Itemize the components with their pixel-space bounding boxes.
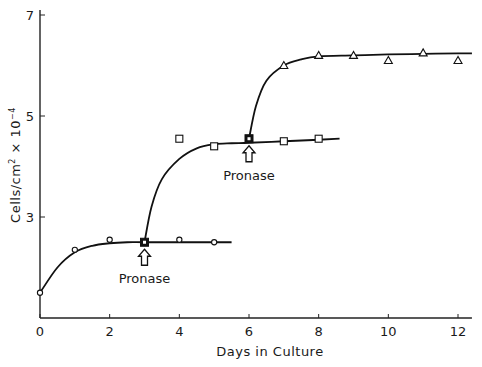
y-tick-label: 3 <box>26 210 34 225</box>
x-axis-label: Days in Culture <box>216 344 323 359</box>
x-tick-label: 0 <box>36 324 44 339</box>
y-tick-label: 7 <box>26 8 34 23</box>
y-tick-label: 5 <box>26 109 34 124</box>
y-axis-label: Cells/cm2 × 10−4 <box>8 107 23 223</box>
triangle-marker <box>454 56 462 63</box>
curve-series-2 <box>145 139 340 243</box>
up-arrow-icon <box>139 249 151 265</box>
circle-marker <box>72 247 77 252</box>
pronase-annotation: Pronase <box>223 146 275 183</box>
filled-square-center <box>143 241 146 244</box>
filled-square-center <box>248 137 251 140</box>
x-tick-label: 6 <box>245 324 253 339</box>
x-tick-label: 10 <box>380 324 397 339</box>
pronase-annotation: Pronase <box>119 249 171 286</box>
square-marker <box>280 138 287 145</box>
circle-marker <box>107 237 112 242</box>
cell-growth-chart: 024681012357 PronasePronase Days in Cult… <box>0 0 482 367</box>
square-marker <box>315 135 322 142</box>
x-tick-label: 8 <box>315 324 323 339</box>
circle-marker <box>177 237 182 242</box>
x-tick-label: 12 <box>450 324 467 339</box>
pronase-label: Pronase <box>119 271 171 286</box>
square-marker <box>211 143 218 150</box>
up-arrow-icon <box>243 146 255 162</box>
circle-marker <box>37 290 42 295</box>
pronase-label: Pronase <box>223 168 275 183</box>
circle-marker <box>212 240 217 245</box>
annotations: PronasePronase <box>119 146 275 287</box>
triangle-marker <box>315 51 323 58</box>
triangle-marker <box>384 56 392 63</box>
svg-text:Cells/cm2 × 10−4: Cells/cm2 × 10−4 <box>8 107 23 223</box>
x-tick-label: 4 <box>175 324 183 339</box>
square-marker <box>176 135 183 142</box>
triangle-marker <box>419 49 427 56</box>
x-tick-label: 2 <box>106 324 114 339</box>
